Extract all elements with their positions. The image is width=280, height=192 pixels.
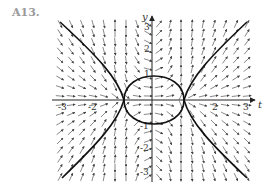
field-arrow bbox=[244, 57, 250, 63]
field-arrow bbox=[56, 76, 63, 80]
field-arrow bbox=[89, 85, 96, 89]
field-arrow bbox=[135, 137, 139, 144]
field-arrow bbox=[188, 103, 195, 107]
field-arrow bbox=[58, 29, 62, 36]
field-arrow bbox=[244, 48, 249, 54]
t-axis-label: t bbox=[258, 99, 263, 110]
field-arrow bbox=[144, 114, 152, 115]
field-arrow bbox=[245, 156, 250, 163]
slope-field-plot: t y 3 2 1 -1 -2 -3 -3 -2 2 3 bbox=[0, 0, 280, 192]
field-arrow bbox=[221, 112, 229, 116]
field-arrow bbox=[169, 155, 171, 163]
field-arrow bbox=[69, 38, 73, 45]
field-arrow bbox=[69, 155, 73, 162]
field-arrow bbox=[90, 120, 96, 126]
field-arrow bbox=[115, 38, 116, 46]
field-arrow bbox=[57, 57, 63, 63]
field-arrow bbox=[56, 86, 64, 89]
field-arrow bbox=[133, 112, 140, 116]
field-arrow bbox=[156, 174, 161, 180]
field-arrow bbox=[167, 85, 174, 90]
field-arrow bbox=[144, 87, 152, 88]
field-arrow bbox=[202, 20, 204, 28]
field-arrow bbox=[168, 56, 171, 64]
field-arrow bbox=[223, 164, 226, 172]
field-arrow bbox=[169, 146, 172, 154]
field-arrow bbox=[78, 85, 86, 89]
field-arrow bbox=[222, 66, 228, 72]
field-arrow bbox=[80, 138, 85, 145]
field-arrow bbox=[243, 113, 251, 116]
field-arrow bbox=[244, 130, 251, 135]
field-arrow bbox=[234, 155, 238, 162]
field-arrow bbox=[114, 137, 115, 145]
field-arrow bbox=[126, 38, 127, 46]
field-arrow bbox=[144, 157, 152, 161]
field-arrow bbox=[245, 39, 250, 46]
field-arrow bbox=[144, 131, 152, 133]
field-arrow bbox=[202, 146, 205, 154]
field-arrow bbox=[103, 47, 105, 55]
field-arrow bbox=[136, 164, 139, 172]
field-arrow bbox=[102, 75, 107, 82]
field-arrow bbox=[156, 30, 162, 36]
field-arrow bbox=[136, 173, 139, 181]
field-arrow bbox=[192, 20, 193, 28]
field-arrow bbox=[191, 38, 192, 46]
field-arrow bbox=[114, 128, 115, 136]
field-arrow bbox=[136, 20, 139, 28]
field-arrow bbox=[58, 173, 62, 180]
field-arrow bbox=[192, 164, 193, 172]
field-arrow bbox=[191, 65, 193, 73]
field-arrow bbox=[67, 104, 75, 105]
field-arrow bbox=[223, 146, 227, 153]
field-arrow bbox=[67, 86, 75, 89]
field-arrow bbox=[57, 129, 64, 134]
field-arrow bbox=[135, 38, 138, 46]
field-arrow bbox=[155, 58, 162, 62]
field-arrow bbox=[156, 21, 161, 27]
field-arrow bbox=[213, 164, 216, 172]
field-arrow bbox=[90, 112, 97, 117]
field-arrow bbox=[202, 164, 204, 172]
y-tick-3: 3 bbox=[144, 22, 150, 32]
field-arrow bbox=[169, 20, 171, 28]
y-tick-neg2: -2 bbox=[140, 143, 149, 153]
field-arrow bbox=[80, 164, 83, 172]
field-arrow bbox=[56, 121, 63, 125]
field-arrow bbox=[155, 86, 163, 88]
field-arrow bbox=[67, 112, 75, 115]
field-arrow bbox=[168, 137, 171, 145]
field-arrow bbox=[212, 38, 215, 46]
field-arrow bbox=[56, 113, 64, 116]
field-arrow bbox=[144, 140, 152, 143]
field-arrow bbox=[234, 38, 238, 45]
field-arrow bbox=[191, 56, 193, 64]
field-arrow bbox=[202, 155, 204, 163]
field-arrow bbox=[202, 137, 205, 145]
field-arrow bbox=[103, 164, 105, 172]
field-arrow bbox=[221, 95, 229, 96]
field-arrow bbox=[79, 66, 85, 72]
field-arrow bbox=[103, 56, 106, 64]
field-arrow bbox=[68, 138, 73, 144]
field-arrow bbox=[221, 104, 229, 105]
field-arrow bbox=[234, 173, 238, 181]
field-arrow bbox=[155, 113, 163, 115]
field-arrow bbox=[90, 75, 96, 81]
field-arrow bbox=[102, 119, 106, 126]
field-arrow bbox=[56, 96, 64, 97]
field-arrow bbox=[191, 47, 192, 55]
field-arrow bbox=[211, 120, 217, 126]
field-arrow bbox=[68, 129, 74, 135]
field-arrow bbox=[222, 120, 229, 125]
field-arrow bbox=[202, 29, 204, 37]
field-arrow bbox=[115, 47, 116, 55]
field-arrow bbox=[201, 120, 206, 127]
y-tick-neg3: -3 bbox=[140, 167, 149, 177]
field-arrow bbox=[125, 128, 126, 136]
field-arrow bbox=[169, 164, 171, 172]
field-arrow bbox=[212, 129, 217, 136]
field-arrow bbox=[80, 146, 84, 153]
field-arrow bbox=[58, 164, 62, 171]
